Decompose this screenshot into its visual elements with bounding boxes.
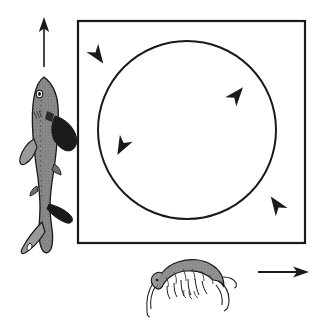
figure-root: A square plot frame enclosing a large ci… (0, 0, 317, 326)
fish-pupil (38, 92, 41, 96)
fish-pectoral-fin-left (20, 139, 37, 165)
cycle-arrowhead-lower-left (111, 135, 133, 159)
amphipod-antennae (147, 283, 155, 317)
horizontal-axis-arrow (258, 266, 309, 277)
cycle-circle (86, 41, 287, 219)
vertical-axis-arrow (39, 17, 49, 67)
cycle-arrowhead-top-left (86, 44, 109, 68)
cycle-arrowhead-lower-right (265, 192, 288, 216)
fish-illustration (20, 77, 77, 254)
amphipod-illustration (147, 260, 237, 317)
cycle-circle-path (98, 41, 276, 219)
amphipod-legs (167, 279, 207, 299)
plot-box (78, 21, 305, 243)
fish-pelvic-fin (30, 186, 38, 196)
amphipod-eye (156, 279, 159, 282)
amphipod-body (156, 260, 224, 289)
cycle-arrowhead-upper-right (225, 83, 248, 107)
diagram-canvas (0, 0, 317, 326)
